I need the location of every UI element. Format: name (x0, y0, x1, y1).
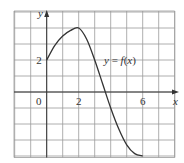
x-axis-label: x (172, 95, 178, 107)
y-tick-label: 2 (36, 54, 42, 66)
grid (14, 11, 175, 158)
function-label: y = f(x) (103, 54, 136, 67)
y-axis-label: y (37, 7, 43, 19)
x-tick-label: 2 (76, 95, 82, 107)
x-tick-label: 6 (140, 95, 146, 107)
axes (14, 10, 179, 158)
function-graph: 0262 x y y = f(x) (0, 0, 184, 163)
x-tick-label: 0 (36, 95, 42, 107)
x-axis-arrow-icon (172, 90, 179, 95)
